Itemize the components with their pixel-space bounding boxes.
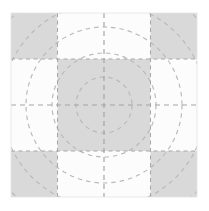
- patch-edge-left-lower: [11, 105, 58, 151]
- patch-center-lower-left: [58, 105, 105, 151]
- patch-center-upper-right: [104, 59, 151, 105]
- patch-edge-bottom-left: [58, 151, 105, 197]
- patch-edge-right-upper: [151, 59, 198, 105]
- patch-corner-bottom-right: [151, 151, 198, 197]
- patch-center-upper-left: [58, 59, 105, 105]
- patch-corner-bottom-left: [11, 151, 58, 197]
- patch-corner-top-left: [11, 13, 58, 59]
- patch-center-lower-right: [104, 105, 151, 151]
- patch-corner-top-right: [151, 13, 198, 59]
- patch-edge-bottom-right: [104, 151, 151, 197]
- patch-edge-left-upper: [11, 59, 58, 105]
- patch-edge-top-left: [58, 13, 105, 59]
- patch-edge-right-lower: [151, 105, 198, 151]
- pattern-canvas: Nine-Patch Quilt Block Draft geometric-p…: [0, 0, 209, 211]
- patch-edge-top-right: [104, 13, 151, 59]
- quilt-block-diagram: [0, 0, 209, 211]
